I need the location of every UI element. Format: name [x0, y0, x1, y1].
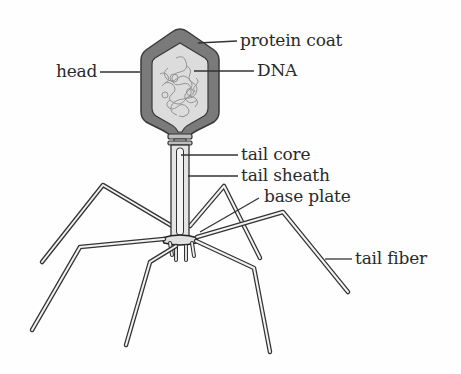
tail	[171, 145, 189, 238]
collar	[168, 134, 192, 145]
label-dna: DNA	[257, 62, 297, 79]
label-tail-fiber: tail fiber	[355, 250, 427, 267]
head-capsid	[141, 29, 219, 138]
leader-protein-coat	[198, 41, 237, 43]
tail-fibers-back	[42, 185, 260, 262]
label-tail-core: tail core	[241, 146, 310, 163]
tail-fibers-front	[32, 212, 348, 352]
label-head: head	[56, 63, 97, 80]
bacteriophage-diagram: protein coat DNA head tail core tail she…	[0, 0, 461, 374]
base-plate-shape	[162, 235, 198, 260]
label-protein-coat: protein coat	[240, 32, 342, 49]
phage-illustration	[0, 0, 461, 374]
label-base-plate: base plate	[264, 188, 351, 205]
tail-core-shape	[177, 148, 184, 235]
label-tail-sheath: tail sheath	[241, 167, 330, 184]
